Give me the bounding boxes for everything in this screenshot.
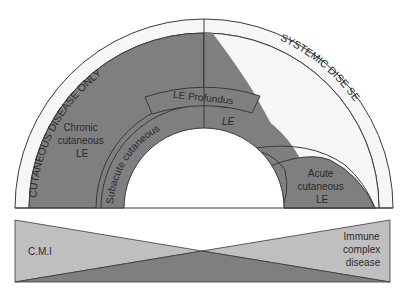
immune-complex-label: Immune complex disease — [343, 231, 383, 268]
cmi-label: C.M.I — [28, 246, 52, 257]
spectrum-panel — [15, 220, 390, 282]
le-label: LE — [222, 116, 235, 127]
lupus-spectrum-diagram: CUTANEOUS DISEASE ONLY SYSTEMIC DISE SE … — [0, 0, 403, 294]
